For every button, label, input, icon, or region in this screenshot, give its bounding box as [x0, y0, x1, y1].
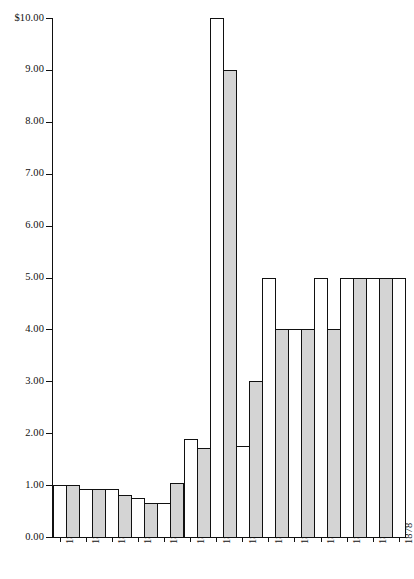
bar-1852[interactable] [53, 485, 67, 538]
bar-1861[interactable] [170, 483, 184, 538]
bar-1871[interactable] [301, 329, 315, 538]
y-axis-tick-label: 3.00 [0, 376, 44, 387]
x-axis-tick-mark [164, 538, 165, 542]
y-axis-label-group: $10.009.008.007.006.005.004.003.002.001.… [0, 0, 44, 579]
x-axis-tick-mark [294, 538, 295, 542]
bar-1859[interactable] [144, 503, 158, 538]
y-axis-tick-label: 8.00 [0, 116, 44, 127]
bar-1876[interactable] [366, 278, 380, 539]
x-axis-tick-mark [399, 538, 400, 542]
x-axis-tick-mark [321, 538, 322, 542]
bar-1867[interactable] [249, 381, 263, 538]
bar-1860[interactable] [157, 503, 171, 538]
y-axis-tick-label: 6.00 [0, 220, 44, 231]
y-axis-tick-label: 0.00 [0, 532, 44, 543]
bar-1872[interactable] [314, 278, 328, 539]
y-axis-tick-label: 9.00 [0, 64, 44, 75]
bar-1873[interactable] [327, 329, 341, 538]
bar-1855[interactable] [92, 489, 106, 538]
bar-1858[interactable] [131, 498, 145, 538]
bar-1853[interactable] [66, 485, 80, 538]
bar-1864[interactable] [210, 18, 224, 538]
bar-1862[interactable] [184, 439, 198, 538]
x-axis-tick-mark [138, 538, 139, 542]
x-axis-tick-mark [190, 538, 191, 542]
bar-1869[interactable] [275, 329, 289, 538]
y-axis-tick-label: $10.00 [0, 13, 44, 24]
x-axis-tick-mark [242, 538, 243, 542]
x-axis-tick-mark [112, 538, 113, 542]
x-axis-tick-mark [373, 538, 374, 542]
bar-1875[interactable] [353, 278, 367, 539]
x-axis-tick-mark [347, 538, 348, 542]
y-axis-tick-label: 7.00 [0, 168, 44, 179]
bar-1870[interactable] [288, 329, 302, 538]
bar-chart: $10.009.008.007.006.005.004.003.002.001.… [0, 0, 414, 579]
x-axis-tick-mark [268, 538, 269, 542]
bar-1865[interactable] [223, 70, 237, 538]
x-axis-tick-mark [216, 538, 217, 542]
y-axis-tick-label: 5.00 [0, 272, 44, 283]
bar-1863[interactable] [197, 448, 211, 538]
x-axis-tick-mark [86, 538, 87, 542]
bar-1878[interactable] [392, 278, 406, 539]
bar-1874[interactable] [340, 278, 354, 539]
x-axis-tick-mark [60, 538, 61, 542]
y-axis-tick-label: 2.00 [0, 428, 44, 439]
y-axis-tick-label: 4.00 [0, 324, 44, 335]
bar-1854[interactable] [79, 489, 93, 538]
bar-1877[interactable] [379, 278, 393, 539]
bar-1868[interactable] [262, 278, 276, 539]
bar-1857[interactable] [118, 495, 132, 538]
bar-1866[interactable] [236, 446, 250, 538]
bar-1856[interactable] [105, 489, 119, 538]
y-axis-tick-label: 1.00 [0, 480, 44, 491]
